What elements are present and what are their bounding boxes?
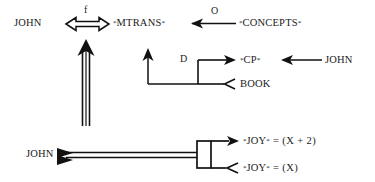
arrow-john-to-cp [281,55,322,65]
node-concepts: *CONCEPTS* [239,18,301,29]
triple-vertical-arrow-up [78,39,95,126]
node-john-bottom: JOHN [26,149,54,160]
mtrans-label: MTRANS [117,17,162,28]
cp-label: CP [244,54,257,65]
double-line-arrow-to-john [57,148,197,165]
edge-label-f: f [84,5,88,15]
node-joy-base: *JOY* = (X) [243,163,298,174]
bracket-d-split [198,60,227,84]
cd-diagram: JOHN f *MTRANS* O *CONCEPTS* D *CP* BOOK… [0,0,375,182]
joy-plus-label: JOY [247,135,267,146]
mtrans-close-delimiter: * [161,19,165,27]
node-cp: *CP* [240,55,260,66]
joy-base-label: JOY [247,162,267,173]
bracket-joy-split [197,141,229,168]
diagram-arrows [0,0,375,182]
double-arrow-john-mtrans [66,18,109,31]
edge-label-d: D [180,54,187,64]
node-john-right: JOHN [325,55,353,66]
concepts-close-delimiter: * [298,19,302,27]
elbow-arrow-up-left [143,48,199,84]
joy-base-value: (X) [282,162,298,173]
arrow-concepts-to-mtrans [191,19,236,29]
arrowhead-from-book [225,79,236,89]
joy-plus-value: (X + 2) [282,135,316,146]
arrowhead-from-joy-base [227,163,238,173]
cp-close-delimiter: * [257,56,261,64]
node-book: BOOK [240,79,271,90]
node-joy-plus: *JOY* = (X + 2) [243,136,316,147]
concepts-label: CONCEPTS [243,17,298,28]
edge-label-o: O [211,6,218,16]
node-john-top: JOHN [14,18,42,29]
node-mtrans: *MTRANS* [113,18,165,29]
